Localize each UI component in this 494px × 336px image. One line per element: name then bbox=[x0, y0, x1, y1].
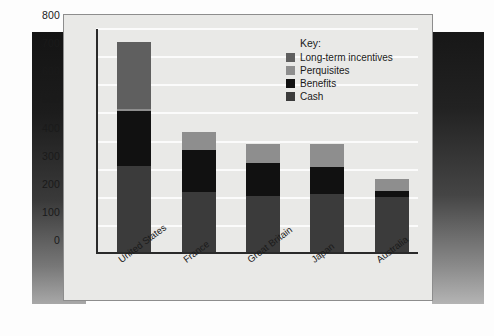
x-axis-category-labels: United StatesFranceGreat BritainJapanAus… bbox=[96, 256, 418, 300]
bar-segment-benefits bbox=[182, 150, 216, 191]
legend-items: Long-term incentivesPerquisitesBenefitsC… bbox=[286, 52, 426, 102]
legend-swatch-icon bbox=[286, 79, 295, 88]
bar-segment-benefits bbox=[375, 191, 409, 197]
y-axis-tick-labels: 0100200300400500600700800 bbox=[34, 15, 64, 240]
bar-segment-perquisites bbox=[310, 144, 344, 167]
bar-segment-long-term-incentives bbox=[117, 42, 151, 108]
chart-legend: Key: Long-term incentivesPerquisitesBene… bbox=[286, 37, 426, 104]
legend-item-label: Perquisites bbox=[300, 65, 349, 76]
y-axis-tick-label: 500 bbox=[42, 93, 60, 105]
chart-card: 0100200300400500600700800 United StatesF… bbox=[63, 14, 433, 301]
right-shadow-panel bbox=[432, 32, 484, 304]
y-axis-tick-label: 200 bbox=[42, 178, 60, 190]
bar-france bbox=[182, 132, 216, 252]
bar-united-states bbox=[117, 42, 151, 252]
y-axis-tick-label: 100 bbox=[42, 206, 60, 218]
legend-item-label: Long-term incentives bbox=[300, 52, 393, 63]
y-axis-tick-label: 400 bbox=[42, 122, 60, 134]
bar-segment-benefits bbox=[246, 163, 280, 195]
y-axis-tick-label: 800 bbox=[42, 9, 60, 21]
y-axis-tick-label: 0 bbox=[54, 234, 60, 246]
y-axis-tick-label: 300 bbox=[42, 150, 60, 162]
legend-item: Benefits bbox=[286, 78, 426, 89]
legend-item: Long-term incentives bbox=[286, 52, 426, 63]
bar-segment-benefits bbox=[117, 111, 151, 166]
bar-japan bbox=[310, 144, 344, 252]
bar-segment-perquisites bbox=[117, 109, 151, 112]
y-axis-tick-label: 700 bbox=[42, 37, 60, 49]
legend-swatch-icon bbox=[286, 66, 295, 75]
bar-segment-benefits bbox=[310, 167, 344, 194]
legend-title: Key: bbox=[300, 37, 426, 49]
legend-item: Perquisites bbox=[286, 65, 426, 76]
legend-item: Cash bbox=[286, 91, 426, 102]
legend-swatch-icon bbox=[286, 92, 295, 101]
bar-segment-perquisites bbox=[182, 132, 216, 150]
bar-segment-perquisites bbox=[246, 144, 280, 164]
bar-segment-perquisites bbox=[375, 179, 409, 190]
legend-item-label: Benefits bbox=[300, 78, 336, 89]
legend-swatch-icon bbox=[286, 53, 295, 62]
legend-item-label: Cash bbox=[300, 91, 323, 102]
screenshot-stage: 0100200300400500600700800 United StatesF… bbox=[0, 0, 494, 336]
y-axis-tick-label: 600 bbox=[42, 65, 60, 77]
